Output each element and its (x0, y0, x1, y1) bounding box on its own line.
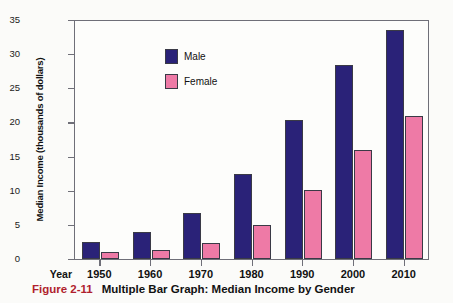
bar-male-2010 (386, 30, 404, 259)
x-axis-title: Year (22, 268, 72, 280)
x-tick-mark (99, 260, 100, 266)
legend-swatch-female-icon (165, 74, 178, 89)
x-tick-label-1960: 1960 (123, 268, 177, 280)
bar-male-2000 (335, 65, 353, 259)
plot-area: Male Female (74, 20, 429, 260)
x-tick-label-1980: 1980 (225, 268, 279, 280)
bar-male-1980 (234, 174, 252, 259)
x-tick-label-2010: 2010 (377, 268, 431, 280)
y-tick-label: 5 (0, 220, 20, 230)
x-tick-label-1990: 1990 (275, 268, 329, 280)
legend-label-female: Female (184, 77, 217, 87)
x-tick-mark (404, 260, 405, 266)
y-tick-label: 30 (0, 49, 20, 59)
bar-male-1990 (285, 120, 303, 259)
bar-male-1970 (183, 213, 201, 259)
y-tick-label: 35 (0, 15, 20, 25)
y-tick-label: 0 (0, 254, 20, 264)
x-tick-label-1950: 1950 (72, 268, 126, 280)
x-tick-label-1970: 1970 (174, 268, 228, 280)
x-tick-mark (252, 260, 253, 266)
bar-female-1970 (202, 243, 220, 259)
bar-male-1960 (133, 232, 151, 259)
bar-female-1960 (152, 250, 170, 259)
bar-female-1980 (253, 225, 271, 259)
x-tick-mark (302, 260, 303, 266)
chart-legend: Male Female (165, 49, 217, 99)
legend-item-female: Female (165, 74, 217, 89)
figure-container: Median Income (thousands of dollars) 353… (0, 0, 453, 303)
figure-title: Multiple Bar Graph: Median Income by Gen… (102, 283, 355, 295)
figure-number: Figure 2-11 (32, 283, 93, 295)
bar-female-1990 (304, 190, 322, 259)
x-tick-mark (353, 260, 354, 266)
x-tick-mark (201, 260, 202, 266)
y-tick-label: 10 (0, 186, 20, 196)
bar-male-1950 (82, 242, 100, 259)
legend-label-male: Male (184, 52, 206, 62)
y-tick-label: 15 (0, 152, 20, 162)
y-axis-title: Median Income (thousands of dollars) (34, 15, 45, 265)
bar-female-2000 (354, 150, 372, 259)
y-tick-label: 25 (0, 83, 20, 93)
figure-caption: Figure 2-11Multiple Bar Graph: Median In… (32, 283, 355, 295)
bar-female-1950 (101, 252, 119, 259)
legend-swatch-male-icon (165, 49, 178, 64)
x-tick-label-2000: 2000 (326, 268, 380, 280)
x-tick-mark (150, 260, 151, 266)
legend-item-male: Male (165, 49, 217, 64)
bar-female-2010 (405, 116, 423, 259)
y-tick-label: 20 (0, 117, 20, 127)
